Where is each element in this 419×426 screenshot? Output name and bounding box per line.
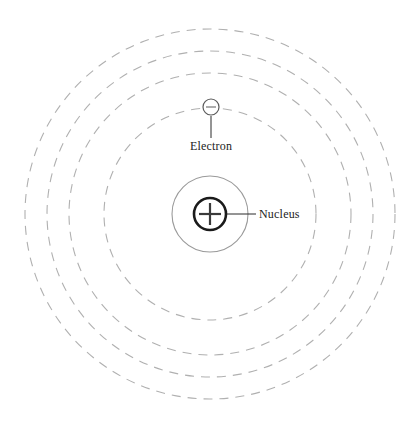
electron-label: Electron [190,139,232,153]
nucleus-label: Nucleus [259,207,300,221]
atom-diagram-canvas: Nucleus Electron [0,0,419,426]
atom-diagram-svg: Nucleus Electron [0,0,419,426]
electron-group [203,99,219,115]
nucleus-group [194,198,226,230]
